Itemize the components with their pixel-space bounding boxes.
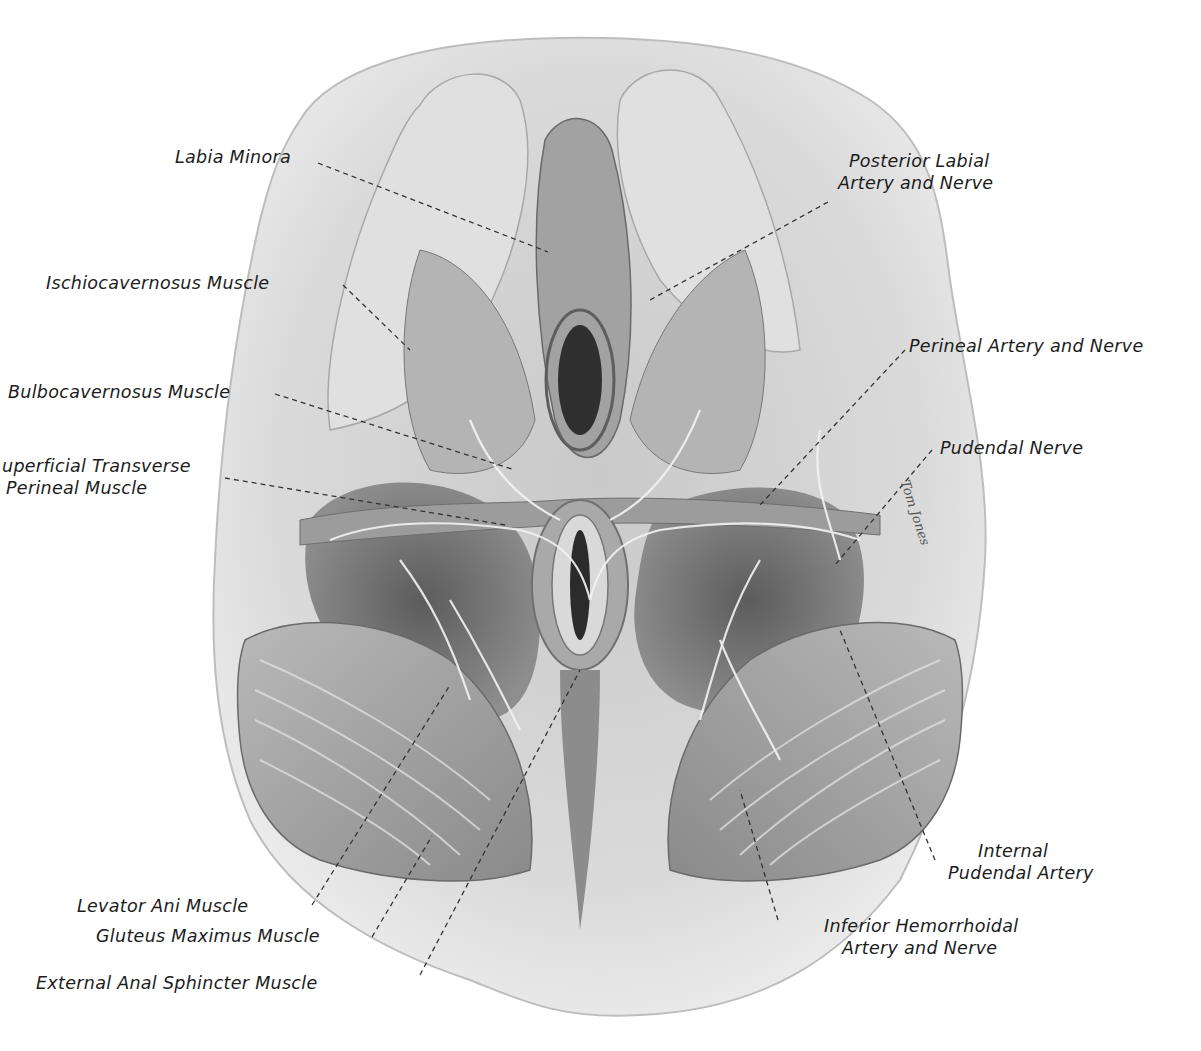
label-inferior-hemorrhoidal-artery-nerve: Inferior Hemorrhoidal Artery and Nerve [824,915,1018,959]
label-posterior-labial-artery-nerve: Posterior Labial Artery and Nerve [838,150,993,194]
label-ischiocavernosus-muscle: Ischiocavernosus Muscle [46,272,269,294]
label-external-anal-sphincter-muscle: External Anal Sphincter Muscle [36,972,318,994]
label-levator-ani-muscle: Levator Ani Muscle [77,895,248,917]
label-perineal-artery-nerve: Perineal Artery and Nerve [909,335,1143,357]
label-internal-pudendal-artery: Internal Pudendal Artery [948,840,1094,884]
label-bulbocavernosus-muscle: Bulbocavernosus Muscle [8,381,230,403]
label-pudendal-nerve: Pudendal Nerve [940,437,1083,459]
label-superficial-transverse-perineal-muscle: uperficial Transverse Perineal Muscle [2,455,191,499]
label-gluteus-maximus-muscle: Gluteus Maximus Muscle [96,925,320,947]
label-labia-minora: Labia Minora [175,146,291,168]
